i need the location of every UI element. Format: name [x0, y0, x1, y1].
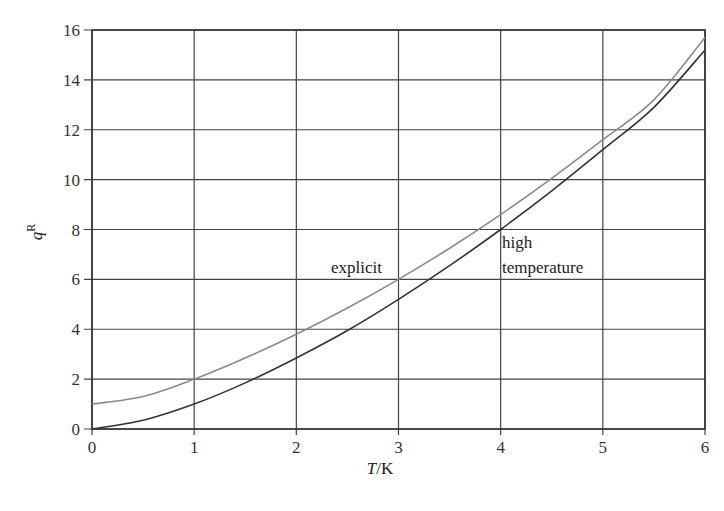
x-tick-label: 5	[599, 438, 608, 457]
x-tick-label: 0	[88, 438, 97, 457]
x-tick-label: 1	[190, 438, 199, 457]
y-tick-label: 6	[72, 270, 81, 289]
y-tick-label: 4	[72, 320, 81, 339]
annotation-temperature: temperature	[502, 258, 583, 277]
annotation-high: high	[502, 233, 533, 252]
x-tick-label: 2	[292, 438, 301, 457]
y-tick-label: 2	[72, 370, 81, 389]
x-tick-label: 3	[394, 438, 403, 457]
x-axis-label: T/K	[367, 459, 394, 478]
annotation-explicit: explicit	[331, 258, 382, 277]
y-tick-label: 12	[63, 121, 80, 140]
svg-text:qR: qR	[24, 224, 46, 241]
x-tick-label: 4	[496, 438, 505, 457]
y-tick-label: 16	[63, 21, 80, 40]
y-tick-label: 8	[72, 221, 81, 240]
y-tick-label: 0	[72, 420, 81, 439]
y-axis-label: qR	[24, 224, 46, 241]
x-tick-label: 6	[701, 438, 710, 457]
grid	[84, 30, 705, 435]
chart: 01234560246810121416 explicit high tempe…	[0, 0, 724, 511]
y-tick-label: 10	[63, 171, 80, 190]
y-tick-label: 14	[63, 71, 81, 90]
